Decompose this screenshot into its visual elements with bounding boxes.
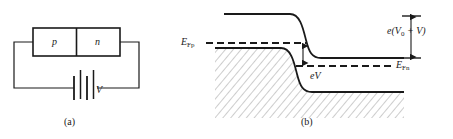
p-region-label: p [52, 36, 57, 47]
bias-energy-label: eV [310, 70, 321, 81]
panel-b-caption: (b) [301, 116, 313, 127]
barrier-prefix: e(V [387, 25, 401, 36]
battery-symbol [74, 70, 94, 100]
fermi-n-subscript: Fn [402, 64, 409, 72]
circuit-diagram [14, 28, 139, 100]
fermi-level-p-label: EFp [181, 36, 195, 49]
fermi-p-subscript: Fp [187, 41, 194, 49]
n-region-label: n [95, 36, 100, 47]
fermi-level-n-label: EFn [396, 59, 410, 72]
figure-container: p n V (a) EFp EFn e(V0 + V) eV (b) [0, 0, 453, 139]
panel-a-caption: (a) [64, 116, 75, 127]
barrier-suffix: + V) [404, 25, 425, 36]
barrier-energy-label: e(V0 + V) [387, 25, 426, 38]
battery-voltage-label: V [96, 84, 102, 95]
